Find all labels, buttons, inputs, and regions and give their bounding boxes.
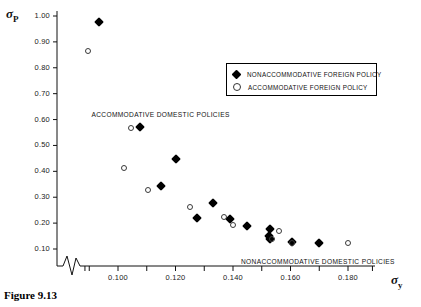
y-tick-label: 0.70 [20,89,50,98]
y-axis-subscript: P [13,14,19,24]
figure-caption: Figure 9.13 [4,289,57,301]
x-tick-label: 0.140 [213,273,253,282]
legend-entry-nonaccommodative: NONACCOMMODATIVE FOREIGN POLICY [233,68,381,80]
x-axis-subscript: y [398,280,403,290]
y-tick-label: 0.20 [20,218,50,227]
x-tick-label: 0.160 [271,273,311,282]
y-tick-label: 0.30 [20,192,50,201]
data-point-open-circle [145,187,151,193]
filled-diamond-icon [232,69,242,79]
open-circle-icon [233,83,241,91]
legend-label-nonaccommodative: NONACCOMMODATIVE FOREIGN POLICY [247,71,381,78]
axis-break-zigzag-icon [63,256,80,275]
data-point-open-circle [230,222,236,228]
y-tick-label: 0.60 [20,115,50,124]
y-axis-sigma: σ [6,6,13,21]
tick-marks [53,16,372,271]
annotation-label: ACCOMMODATIVE DOMESTIC POLICIES [91,111,229,118]
data-point-open-circle [269,236,275,242]
x-axis-sigma: σ [391,272,398,287]
data-point-open-circle [187,204,193,210]
figure-9-13: σP σy 0.100.200.300.400.500.600.700.800.… [0,0,421,307]
data-point-open-circle [121,165,127,171]
data-point-open-circle [128,125,134,131]
x-tick-label: 0.120 [156,273,196,282]
y-tick-label: 0.80 [20,63,50,72]
legend: NONACCOMMODATIVE FOREIGN POLICY ACCOMMOD… [226,63,377,96]
y-tick-label: 0.50 [20,140,50,149]
y-tick-label: 0.90 [20,37,50,46]
y-axis-label: σP [6,6,19,24]
data-point-open-circle [85,48,91,54]
data-point-open-circle [276,228,282,234]
legend-entry-accommodative: ACCOMMODATIVE FOREIGN POLICY [233,81,368,93]
y-tick-label: 0.40 [20,166,50,175]
data-point-open-circle [221,214,227,220]
x-tick-label: 0.180 [328,273,368,282]
axis-lines [57,11,375,266]
x-axis-label: σy [391,272,403,290]
annotation-label: NONACCOMMODATIVE DOMESTIC POLICIES [241,258,395,265]
data-point-open-circle [289,240,295,246]
x-tick-label: 0.100 [98,273,138,282]
y-tick-label: 0.10 [20,244,50,253]
data-point-open-circle [345,240,351,246]
y-tick-label: 1.00 [20,11,50,20]
legend-label-accommodative: ACCOMMODATIVE FOREIGN POLICY [248,84,368,91]
